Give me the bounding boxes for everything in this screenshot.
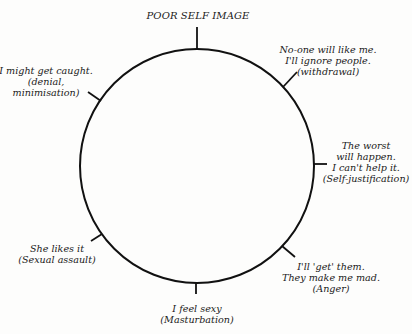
node-line: (withdrawal) [279, 66, 376, 77]
node-line: (Self-justification) [323, 173, 410, 184]
node-line: I'll ignore people. [279, 55, 376, 66]
node-line: (Sexual assault) [18, 254, 96, 265]
node-line: POOR SELF IMAGE [147, 10, 250, 21]
node-line: will happen. [323, 151, 410, 162]
node-line: I can't help it. [323, 162, 410, 173]
node-line: I might get caught. [0, 65, 93, 76]
cycle-diagram: POOR SELF IMAGE No-one will like me. I'l… [0, 0, 412, 334]
node-line: No-one will like me. [279, 44, 376, 55]
node-sexual-assault: She likes it (Sexual assault) [18, 243, 96, 265]
node-line: She likes it [18, 243, 96, 254]
tick-anger [282, 246, 295, 257]
node-line: They make me mad. [282, 272, 380, 283]
node-poor-self-image: POOR SELF IMAGE [147, 10, 250, 21]
node-withdrawal: No-one will like me. I'll ignore people.… [279, 44, 376, 77]
node-self-justification: The worst will happen. I can't help it. … [323, 140, 410, 184]
cycle-circle [80, 49, 314, 283]
node-denial: I might get caught. (denial, minimisatio… [0, 65, 93, 98]
node-line: I'll 'get' them. [282, 261, 380, 272]
node-line: (denial, [0, 76, 93, 87]
node-line: (Masturbation) [160, 314, 233, 325]
tick-sexual-assault [91, 234, 102, 241]
node-anger: I'll 'get' them. They make me mad. (Ange… [282, 261, 380, 294]
node-line: (Anger) [282, 283, 380, 294]
node-line: minimisation) [0, 87, 93, 98]
node-masturbation: I feel sexy (Masturbation) [160, 303, 233, 325]
node-line: I feel sexy [160, 303, 233, 314]
node-line: The worst [323, 140, 410, 151]
